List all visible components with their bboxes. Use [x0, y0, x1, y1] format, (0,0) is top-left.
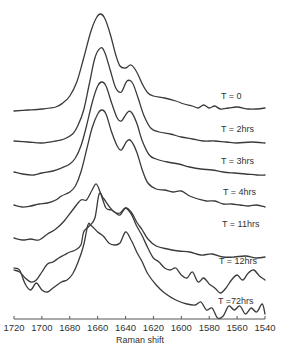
tick-label-1560: 1560: [227, 322, 248, 333]
x-axis-tick-labels: 1720 1700 1680 1660 1640 1620 1600 1580 …: [3, 322, 275, 333]
series-label-t72hrs: T =72hrs: [218, 296, 254, 306]
series-label-t2hrs: T = 2hrs: [221, 124, 255, 134]
tick-label-1720: 1720: [3, 322, 24, 333]
series-labels: T = 0 T = 2hrs T = 3hrs T = 4hrs T = 11h…: [218, 91, 260, 306]
series-label-t0: T = 0: [221, 91, 242, 101]
tick-label-1700: 1700: [31, 322, 52, 333]
x-axis-title: Raman shift: [116, 335, 165, 345]
tick-label-1640: 1640: [115, 322, 136, 333]
tick-label-1680: 1680: [59, 322, 80, 333]
tick-label-1600: 1600: [171, 322, 192, 333]
series-label-t12hrs: T = 12hrs: [219, 256, 258, 266]
tick-label-1620: 1620: [143, 322, 164, 333]
series-label-t3hrs: T = 3hrs: [221, 156, 255, 166]
spectrum-curve: [14, 193, 265, 293]
x-axis: 1720 1700 1680 1660 1640 1620 1600 1580 …: [3, 316, 275, 345]
tick-label-1660: 1660: [87, 322, 108, 333]
tick-label-1540: 1540: [254, 322, 275, 333]
raman-spectra-chart: T = 0 T = 2hrs T = 3hrs T = 4hrs T = 11h…: [0, 0, 284, 355]
tick-label-1580: 1580: [199, 322, 220, 333]
series-label-t11hrs: T = 11hrs: [222, 219, 260, 229]
spectra-curves: [14, 14, 265, 319]
series-label-t4hrs: T = 4hrs: [223, 187, 257, 197]
